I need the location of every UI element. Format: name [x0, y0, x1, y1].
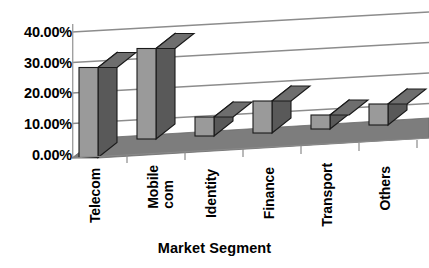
x-axis-tick-label-transport: Transport	[320, 163, 335, 227]
x-axis-tick-label-telecom: Telecom	[88, 168, 103, 223]
x-axis-tick-label-mobile-com: Mobile com	[146, 165, 175, 209]
y-axis-tick-label: 40.00%	[24, 24, 72, 40]
y-axis-tick-label: 0.00%	[32, 147, 72, 163]
y-axis-tick-label: 10.00%	[24, 116, 72, 132]
y-axis-tick-labels: 40.00% 30.00% 20.00% 10.00% 0.00%	[0, 0, 72, 268]
x-axis-title: Market Segment	[0, 240, 429, 256]
bar-chart: 40.00% 30.00% 20.00% 10.00% 0.00%	[0, 0, 429, 268]
y-axis-tick-label: 20.00%	[24, 85, 72, 101]
x-axis-tick-label-others: Others	[378, 166, 393, 211]
x-axis-tick-labels: Telecom Mobile com Identity Finance Tran…	[72, 160, 429, 242]
y-axis-tick-label: 30.00%	[24, 55, 72, 71]
x-axis-tick-label-identity: Identity	[204, 169, 219, 218]
x-axis-tick-label-finance: Finance	[262, 167, 277, 219]
